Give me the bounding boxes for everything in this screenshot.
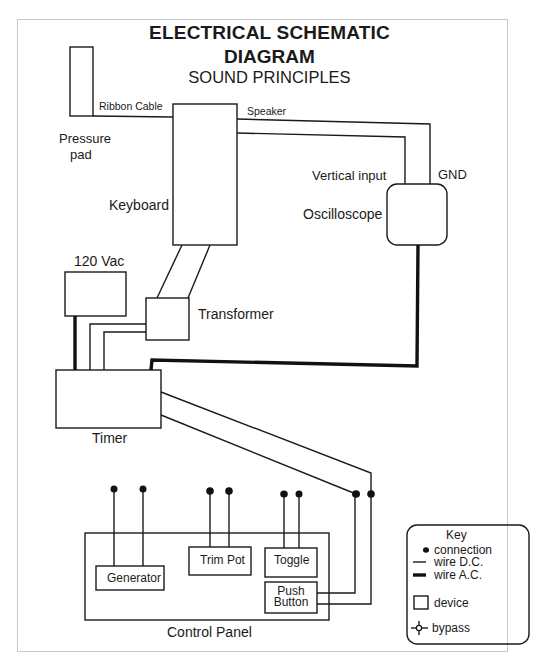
timer-box (56, 370, 161, 428)
gnd-label: GND (438, 167, 467, 182)
push-button-wire-1 (317, 494, 355, 593)
connection-dot (296, 491, 303, 498)
transformer-timer-wire-1 (90, 324, 146, 370)
timer-push-button-wire-2 (161, 415, 356, 494)
key-item-wire-ac: wire A.C. (434, 568, 482, 582)
push-button-wire-2 (317, 494, 371, 604)
keyboard-transformer-wire-2 (188, 245, 210, 298)
toggle-label: Toggle (274, 553, 309, 567)
key-device-symbol (414, 596, 428, 609)
oscilloscope-timer-ac-wire (151, 245, 418, 370)
key-item-device: device (434, 596, 469, 610)
key-connection-symbol (423, 547, 429, 553)
timer-label: Timer (92, 430, 127, 446)
connection-dot (367, 490, 375, 498)
key-title: Key (446, 528, 467, 542)
keyboard-box (173, 104, 237, 245)
transformer-box (146, 298, 189, 340)
connection-dot (225, 487, 233, 495)
key-item-wire-dc: wire D.C. (434, 555, 483, 569)
keyboard-label: Keyboard (109, 197, 169, 213)
subtitle: SOUND PRINCIPLES (0, 68, 539, 87)
timer-push-button-wire-1 (161, 392, 371, 494)
key-item-bypass: bypass (432, 621, 470, 635)
push-button-label: Push Button (265, 586, 317, 608)
title-line-2: DIAGRAM (0, 46, 539, 68)
control-panel-label: Control Panel (167, 624, 252, 640)
connection-dot (352, 490, 360, 498)
connection-dot (111, 486, 118, 493)
power-source-label: 120 Vac (74, 253, 124, 269)
connection-dot (280, 491, 288, 498)
trim-pot-label: Trim Pot (200, 553, 245, 567)
push-button-label-line2: Button (265, 597, 317, 608)
connection-dot (206, 487, 214, 495)
ribbon-cable-label: Ribbon Cable (99, 100, 163, 112)
keyboard-transformer-wire-1 (157, 245, 182, 298)
ribbon-cable-wire (93, 116, 173, 117)
title-line-1: ELECTRICAL SCHEMATIC (0, 22, 539, 44)
vertical-input-label: Vertical input (312, 168, 386, 183)
connection-dot (140, 486, 147, 493)
transformer-label: Transformer (198, 306, 274, 322)
power-source-box (65, 272, 126, 316)
oscilloscope-box (387, 184, 447, 245)
transformer-timer-wire-2 (104, 332, 146, 370)
pressure-pad-label-line2: pad (70, 147, 92, 162)
oscilloscope-label: Oscilloscope (303, 206, 382, 222)
generator-label: Generator (107, 571, 161, 585)
key-bypass-circle (416, 625, 421, 630)
speaker-label: Speaker (247, 105, 286, 117)
pressure-pad-label-line1: Pressure (59, 131, 111, 146)
